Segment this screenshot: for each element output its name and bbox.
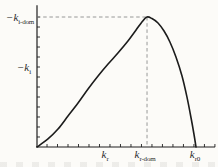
label-subscript: i-dom — [18, 18, 34, 26]
label-subscript: r-dom — [139, 155, 155, 163]
dispersion-curve-figure: −ki-dom −ki kr kr-dom kr0 — [0, 0, 218, 167]
label-subscript: r — [106, 155, 108, 163]
label-main: −k — [6, 11, 18, 23]
y-axis-label-ki: −ki — [0, 62, 31, 76]
x-axis-label-kr-dom: kr-dom — [122, 149, 168, 163]
label-subscript: r0 — [195, 155, 200, 163]
x-axis-label-kr0: kr0 — [181, 149, 209, 163]
y-axis-label-ki-dom: −ki-dom — [0, 12, 34, 26]
x-axis-label-kr: kr — [93, 149, 117, 163]
growth-rate-curve — [37, 17, 196, 147]
label-main: −k — [17, 61, 29, 73]
label-subscript: i — [29, 68, 31, 76]
